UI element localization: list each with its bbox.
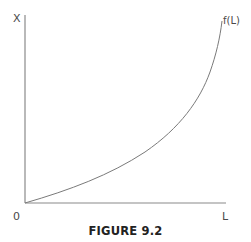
y-axis-label: X — [13, 13, 21, 24]
figure-caption: FIGURE 9.2 — [0, 224, 251, 238]
curve-f-of-l — [25, 21, 222, 203]
chart-plot — [0, 0, 251, 242]
curve-label: f(L) — [223, 15, 240, 26]
origin-label: 0 — [13, 211, 20, 222]
x-axis-label: L — [222, 211, 228, 222]
